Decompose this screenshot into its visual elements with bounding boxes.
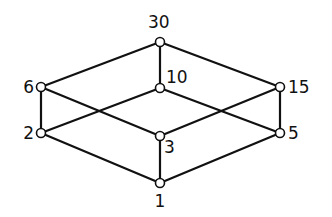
node-2 xyxy=(37,129,46,138)
node-label-1: 1 xyxy=(155,191,166,211)
node-label-10: 10 xyxy=(166,67,188,87)
node-label-15: 15 xyxy=(288,77,310,97)
edge-1-2 xyxy=(41,133,160,183)
node-label-3: 3 xyxy=(164,137,175,157)
node-6 xyxy=(37,83,46,92)
edge-1-5 xyxy=(160,133,280,183)
node-label-5: 5 xyxy=(288,123,299,143)
edge-6-30 xyxy=(41,42,160,87)
node-5 xyxy=(276,129,285,138)
node-30 xyxy=(156,38,165,47)
edges-group xyxy=(41,42,280,183)
node-label-30: 30 xyxy=(148,12,170,32)
node-label-6: 6 xyxy=(23,77,34,97)
node-1 xyxy=(156,179,165,188)
node-label-2: 2 xyxy=(23,123,34,143)
hasse-diagram: 30610152351 xyxy=(0,0,332,217)
node-10 xyxy=(156,84,165,93)
node-15 xyxy=(276,83,285,92)
